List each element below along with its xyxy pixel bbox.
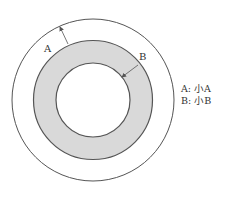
inner-circle bbox=[56, 63, 130, 137]
legend-item-a: A: 小A bbox=[181, 83, 211, 95]
legend-text-b: 小B bbox=[194, 95, 211, 106]
legend-item-b: B: 小B bbox=[181, 95, 211, 107]
legend-key-b: B: bbox=[181, 95, 191, 106]
legend-text-a: 小A bbox=[194, 83, 211, 94]
label-b: B bbox=[139, 51, 146, 62]
legend-key-a: A: bbox=[181, 83, 191, 94]
legend: A: 小A B: 小B bbox=[181, 83, 211, 107]
label-a: A bbox=[43, 43, 52, 54]
